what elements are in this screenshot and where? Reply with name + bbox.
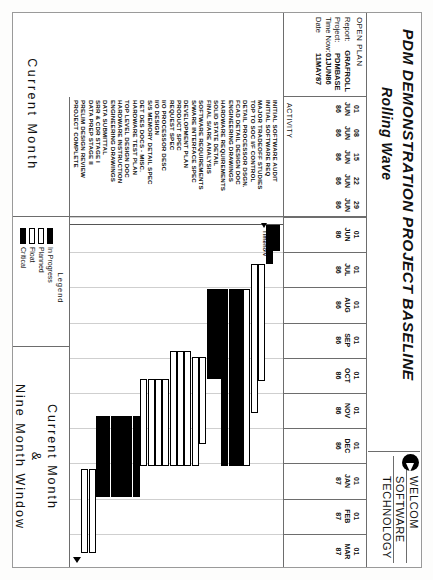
tick-day: 01 (352, 399, 361, 423)
activity-label: S/S MEMORY DETAIL SPEC (146, 100, 153, 185)
footer-current-month-label: Current Month (25, 13, 39, 216)
tick-month: SEP (343, 328, 352, 352)
timescale-tick-sep-86: 01SEP86 (334, 328, 361, 352)
tick-month: JUN (343, 145, 352, 169)
gantt-bar (221, 289, 228, 467)
tick-month: JUN (343, 121, 352, 145)
tick-year: 86 (334, 293, 343, 317)
tick-month: DEC (343, 434, 352, 458)
info-row-project: Project: PDMBASE (333, 17, 343, 92)
activity-label: DET DES DOCS - MISC. (139, 100, 146, 172)
tick-year: 86 (334, 363, 343, 387)
legend-item-planned: Planned (36, 228, 45, 348)
gantt-bar (95, 416, 102, 497)
tick-month: NOV (343, 399, 352, 423)
info-row-report: Report: GRAFROLL (342, 17, 352, 92)
page-subtitle: Rolling Wave (379, 87, 395, 181)
legend-swatch-planned (38, 228, 44, 244)
gantt-bar (177, 351, 184, 466)
tick-month: JUN (343, 169, 352, 193)
milestone-marker (72, 557, 80, 563)
info-value-date: 11MAY87 (314, 53, 324, 85)
timescale-tick-dec-86: 01DEC86 (334, 434, 361, 458)
tick-month: JAN (343, 469, 352, 493)
activity-label: DEVELOPMENT PLAN (183, 100, 190, 168)
gantt-bar (236, 289, 243, 467)
activity-label: S/WARE INTERFACE SPEC (190, 100, 197, 183)
activity-row-labels: INITIAL SOFTWARE AUDITINITIAL SOFTWARE R… (69, 97, 283, 217)
activity-label: DETAIL PROCESSOR DSGN. (242, 100, 249, 188)
plot-gridline (70, 252, 283, 253)
tick-day: 01 (352, 504, 361, 528)
activity-label: FINAL S/ARE ANALYSIS (205, 100, 212, 174)
gantt-bar (147, 379, 154, 466)
timescale-tick-feb-87: 01FEB87 (334, 504, 361, 528)
tick-year: 86 (334, 121, 343, 145)
activity-label: DATA SUBMITTAL (102, 100, 109, 155)
footer-right-line-2: & (29, 347, 43, 567)
legend-swatch-critical (20, 228, 26, 244)
tick-year: 86 (334, 97, 343, 121)
activity-label: HARDWARE INSTRUCTION (117, 100, 124, 183)
tick-year: 86 (334, 169, 343, 193)
activity-label: TOP TO SOC I/F CONTROL (249, 100, 256, 182)
gantt-chart-sheet: PDM DEMONSTRATION PROJECT BASELINE Rolli… (12, 12, 422, 568)
tick-day: 22 (352, 169, 361, 193)
timescale-tick-jun-86: 01JUN86 (334, 223, 361, 247)
tick-year: 86 (334, 145, 343, 169)
timescale-gridline (284, 393, 367, 394)
activity-label: HARDWARE REQUIREMENTS (220, 100, 227, 191)
tick-day: 08 (352, 121, 361, 145)
tick-year: 86 (334, 399, 343, 423)
timescale-tick-nov-86: 01NOV86 (334, 399, 361, 423)
tick-year: 86 (334, 328, 343, 352)
activity-label: TOP LEVEL DESIGN DOC (124, 100, 131, 178)
gantt-bar (132, 416, 139, 497)
activity-label: ENGINEERING DRAWINGS (227, 100, 234, 182)
legend-item-float: Float (27, 228, 36, 348)
gantt-bar (169, 351, 176, 466)
timescale-tick-aug-86: 01AUG86 (334, 293, 361, 317)
activity-label: SOFTWARE REQUIREMENTS (198, 100, 205, 190)
activity-label: HARDWARE TEST PLAN (131, 100, 138, 175)
legend-swatch-float (29, 228, 35, 244)
tick-year: 86 (334, 434, 343, 458)
timescale-gridline (284, 252, 367, 253)
activity-label: DATA PREP STAGE II (87, 100, 94, 165)
timescale-tick-oct-86: 01OCT86 (334, 363, 361, 387)
gantt-bar (213, 289, 220, 379)
legend-title: Legend (55, 228, 65, 348)
footer-right-line-1: Current Month (45, 347, 59, 567)
tick-day: 01 (352, 434, 361, 458)
chart-title-bar: PDM DEMONSTRATION PROJECT BASELINE Rolli… (367, 13, 421, 567)
tick-month: JUN (343, 223, 352, 247)
gantt-bar (118, 416, 125, 497)
tick-day: 01 (352, 258, 361, 282)
gantt-bar (191, 357, 198, 466)
tick-day: 01 (352, 328, 361, 352)
left-tick-15JUN: 15JUN86 (334, 145, 361, 169)
timescale-tick-mar-87: 01MAR87 (334, 539, 361, 563)
brand-line-1: WELCOM (407, 456, 420, 563)
tick-month: FEB (343, 504, 352, 528)
gantt-bar (199, 357, 206, 444)
brand-line-3: TECHNOLOGY (380, 456, 394, 563)
activity-label: PRELIM DESIGN REVIEW (80, 100, 87, 178)
tick-day: 15 (352, 145, 361, 169)
tick-year: 86 (334, 223, 343, 247)
legend-label-in-progress: In Progress (45, 247, 55, 283)
activity-label: I/O PROCESSOR DESC (161, 100, 168, 171)
activity-label: INITIAL SOFTWARE REQ (264, 100, 271, 176)
activity-label: SRR & CDR STAGE I (94, 100, 101, 163)
info-row-date: Date 11MAY87 (314, 17, 324, 92)
gantt-bar (206, 289, 213, 379)
brand-block: WELCOM SOFTWARE TECHNOLOGY (368, 451, 420, 563)
legend-label-planned: Planned (36, 247, 46, 273)
plot-gridline (70, 534, 283, 535)
tick-day: 01 (352, 97, 361, 121)
left-tick-01JUN: 01JUN86 (334, 97, 361, 121)
tick-year: 87 (334, 469, 343, 493)
left-tick-08JUN: 08JUN86 (334, 121, 361, 145)
tick-month: JUN (343, 97, 352, 121)
tick-day: 29 (352, 193, 361, 217)
